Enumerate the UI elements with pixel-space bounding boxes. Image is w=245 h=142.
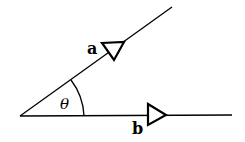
angle-arc xyxy=(71,80,84,116)
vector-a-arrowhead-icon xyxy=(102,42,124,60)
vector-b-label: b xyxy=(132,119,143,138)
angle-theta-label: θ xyxy=(60,95,69,113)
vector-b-line xyxy=(20,115,232,116)
vector-angle-diagram: a b θ xyxy=(0,0,245,142)
vector-a-line xyxy=(20,7,172,116)
vector-b-arrowhead-icon xyxy=(148,104,166,125)
vector-a-label: a xyxy=(87,39,97,58)
